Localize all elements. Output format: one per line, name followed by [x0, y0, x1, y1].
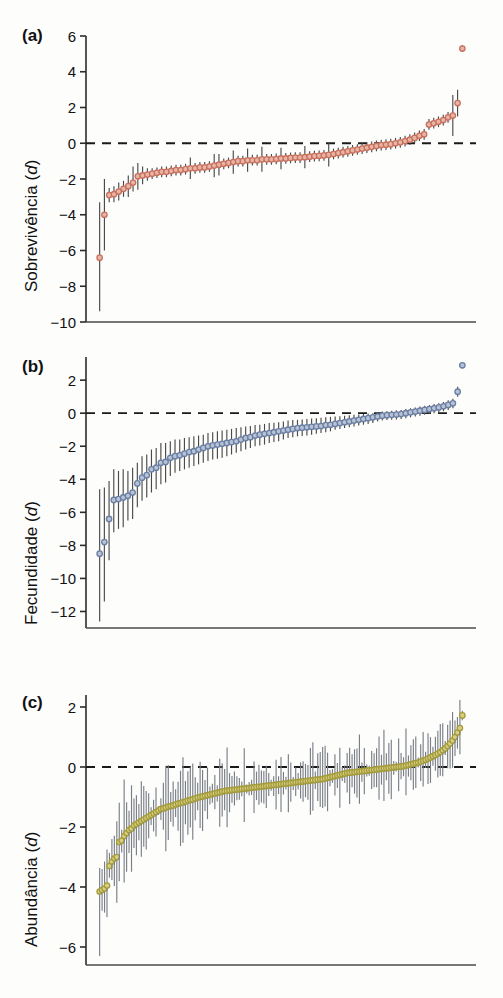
y-tick-label: 0 [68, 759, 76, 776]
data-point [97, 255, 102, 260]
data-point [460, 713, 465, 718]
panel-a-plot: 6420−2−4−6−8−10 [0, 0, 503, 340]
data-point [450, 401, 455, 406]
data-point [455, 100, 460, 105]
panel-a-survival: (a) Sobrevivência (d) 6420−2−4−6−8−10 [0, 0, 503, 340]
data-point [106, 516, 111, 521]
y-tick-label: −4 [59, 879, 76, 896]
y-tick-label: −4 [59, 206, 76, 223]
panel-b-fecundity: (b) Fecundidade (d) 20−2−4−6−8−10−12 [0, 335, 503, 655]
data-point [144, 472, 149, 477]
data-point [455, 389, 460, 394]
y-tick-label: −6 [59, 939, 76, 956]
y-tick-label: 0 [68, 135, 76, 152]
figure-container: (a) Sobrevivência (d) 6420−2−4−6−8−10 (b… [0, 0, 503, 998]
data-point [457, 725, 462, 730]
data-point [460, 363, 465, 368]
y-tick-label: −2 [59, 819, 76, 836]
y-tick-label: 4 [68, 63, 76, 80]
y-tick-label: −2 [59, 171, 76, 188]
y-tick-label: −8 [59, 537, 76, 554]
data-point [102, 212, 107, 217]
data-point [153, 465, 158, 470]
y-tick-label: −12 [51, 603, 76, 620]
y-tick-label: 6 [68, 28, 76, 45]
y-tick-label: 2 [68, 99, 76, 116]
panel-b-plot: 20−2−4−6−8−10−12 [0, 335, 503, 655]
data-point [450, 113, 455, 118]
data-point [130, 490, 135, 495]
data-point [135, 481, 140, 486]
panel-c-plot: 20−2−4−6 [0, 655, 503, 998]
data-point [421, 132, 426, 137]
y-tick-label: −6 [59, 242, 76, 259]
data-point [460, 46, 465, 51]
data-point [104, 883, 109, 888]
panel-c-abundance: (c) Abundância (d) 20−2−4−6 [0, 655, 503, 998]
data-point [163, 459, 168, 464]
y-tick-label: −6 [59, 504, 76, 521]
data-point [102, 539, 107, 544]
y-tick-label: −4 [59, 471, 76, 488]
y-tick-label: 2 [68, 372, 76, 389]
data-point [97, 551, 102, 556]
y-tick-label: −8 [59, 278, 76, 295]
y-tick-label: −10 [51, 314, 76, 331]
y-tick-label: 0 [68, 405, 76, 422]
y-tick-label: −10 [51, 570, 76, 587]
y-tick-label: −2 [59, 438, 76, 455]
y-tick-label: 2 [68, 699, 76, 716]
data-point [130, 180, 135, 185]
